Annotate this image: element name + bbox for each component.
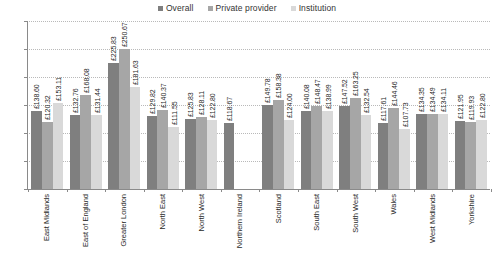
bar[interactable]: £140.37 [157,110,168,189]
bar-slot: £134.49 [427,21,438,189]
bar-slot: £149.78 [262,21,273,189]
legend-label-institution: Institution [299,3,336,13]
x-axis-category: Wales [375,192,414,270]
bar[interactable]: £125.83 [185,119,196,189]
x-axis-category: North West [182,192,221,270]
bar-slot [234,21,245,189]
bar-group: £147.52£163.25£132.54 [336,21,375,189]
bar-slot: £122.80 [476,21,487,189]
bar[interactable]: £149.78 [262,105,273,189]
x-axis-category-label: Yorkshire [468,194,476,225]
bar[interactable]: £131.44 [91,115,102,189]
bar[interactable]: £134.11 [438,114,449,189]
bar[interactable]: £121.95 [455,121,466,189]
x-axis-category-label: Wales [390,194,398,215]
legend-item-institution: Institution [291,3,336,13]
bar-slot: £129.82 [147,21,158,189]
bar-value-label: £124.00 [286,93,293,118]
bar[interactable]: £163.25 [350,98,361,189]
x-axis-category: South East [298,192,337,270]
bar-value-label: £134.49 [429,87,436,112]
bar[interactable]: £138.60 [31,111,42,189]
bar-slot: £138.60 [31,21,42,189]
bar[interactable]: £120.32 [42,122,53,189]
bar-group: £140.08£148.47£138.99 [298,21,337,189]
bar-value-label: £158.38 [275,74,282,99]
bar-group: £134.35£134.49£134.11 [413,21,452,189]
bar[interactable]: £124.00 [284,120,295,189]
chart-legend: Overall Private provider Institution [0,1,494,15]
bar[interactable]: £134.49 [427,114,438,189]
bar-value-label: £132.54 [363,88,370,113]
x-axis-category: South West [337,192,376,270]
bar-slot: £132.54 [361,21,372,189]
bar[interactable]: £128.11 [196,117,207,189]
bar-value-label: £138.99 [324,85,331,110]
bar-group: £121.95£119.93£122.80 [452,21,491,189]
bar-value-label: £134.11 [440,88,447,112]
bar[interactable]: £144.46 [388,108,399,189]
bar[interactable]: £168.08 [80,95,91,189]
bar[interactable]: £148.47 [311,106,322,189]
bar-slot: £148.47 [311,21,322,189]
bar-value-label: £225.83 [110,36,117,61]
bar-slot: £111.55 [168,21,179,189]
bar-slot: £138.99 [322,21,333,189]
bar[interactable]: £107.73 [399,129,410,189]
x-axis-category-label: East Midlands [43,194,51,241]
legend-swatch-overall [158,6,163,11]
bar-slot: £140.08 [301,21,312,189]
bar-value-label: £107.73 [401,102,408,127]
bar-value-label: £128.11 [198,91,205,115]
bar[interactable]: £250.67 [119,49,130,189]
bar[interactable]: £181.63 [130,87,141,189]
x-axis-category-label: East of England [82,194,90,247]
bar[interactable]: £138.99 [322,111,333,189]
bar-group: £132.76£168.08£131.44 [67,21,106,189]
bar[interactable]: £153.11 [53,103,64,189]
bar-slot: £125.83 [185,21,196,189]
bar[interactable]: £129.82 [147,116,158,189]
bar-value-label: £134.35 [418,87,425,112]
bar[interactable]: £122.80 [476,120,487,189]
x-axis-category: East of England [67,192,106,270]
bar-value-label: £168.08 [82,68,89,93]
x-axis-category-label: South East [313,194,321,231]
bar-value-label: £117.61 [379,97,386,121]
bar[interactable]: £132.54 [361,115,372,189]
bar-group: £118.67 [221,21,260,189]
bar-value-label: £121.95 [456,94,463,119]
bar-slot: £132.76 [70,21,81,189]
y-axis-tick [24,189,27,190]
bar[interactable]: £122.80 [207,120,218,189]
bar-slot: £168.08 [80,21,91,189]
bar-value-label: £144.46 [390,82,397,107]
bar-slot: £121.95 [455,21,466,189]
bar[interactable]: £225.83 [108,63,119,189]
bar-slot: £118.67 [224,21,235,189]
bar[interactable]: £111.55 [168,127,179,189]
bar-value-label: £131.44 [93,89,100,114]
bar[interactable]: £132.76 [70,115,81,189]
bar-value-label: £140.08 [302,84,309,109]
bar[interactable]: £119.93 [465,122,476,189]
bar-slot: £117.61 [378,21,389,189]
bar-group: £129.82£140.37£111.55 [144,21,183,189]
bars-layer: £138.60£120.32£153.11£132.76£168.08£131.… [28,21,490,189]
bar-value-label: £122.80 [478,94,485,119]
bar-value-label: £153.11 [55,77,62,101]
bar[interactable]: £147.52 [339,106,350,189]
bar-slot: £181.63 [130,21,141,189]
bar-value-label: £125.83 [187,92,194,117]
bar[interactable]: £158.38 [273,100,284,189]
bar-group: £125.83£128.11£122.80 [182,21,221,189]
bar[interactable]: £117.61 [378,123,389,189]
bar[interactable]: £134.35 [416,114,427,189]
bar-value-label: £122.80 [209,94,216,119]
bar-slot: £128.11 [196,21,207,189]
bar[interactable]: £118.67 [224,123,235,189]
bar-value-label: £163.25 [352,71,359,96]
bar-slot: £107.73 [399,21,410,189]
bar-value-label: £111.55 [170,101,177,125]
bar[interactable]: £140.08 [301,111,312,189]
